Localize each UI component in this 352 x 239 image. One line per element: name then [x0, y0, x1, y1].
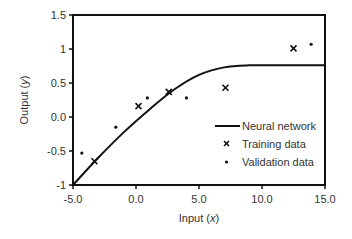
- legend-dot-marker-icon: [225, 160, 228, 163]
- y-tick-label: 0.0: [51, 111, 66, 123]
- training-point: [91, 158, 97, 164]
- chart-canvas: -5.00.05.010.015.0 -1-0.50.00.511.5 Inpu…: [0, 0, 352, 239]
- y-tick-label: 1: [60, 43, 66, 55]
- legend-label-validation-data: Validation data: [242, 156, 315, 168]
- training-point: [222, 85, 228, 91]
- validation-point: [114, 126, 117, 129]
- y-tick-label: -1: [56, 179, 66, 191]
- legend: Neural network Training data Validation …: [215, 120, 316, 168]
- y-axis-label: Output (y): [18, 76, 30, 125]
- x-tick-label: 0.0: [128, 193, 143, 205]
- x-tick-label: 10.0: [251, 193, 272, 205]
- y-tick-label: -0.5: [47, 145, 66, 157]
- validation-point: [80, 151, 83, 154]
- x-tick-label: 15.0: [314, 193, 335, 205]
- y-tick-label: 1.5: [51, 9, 66, 21]
- legend-label-neural-network: Neural network: [242, 120, 316, 132]
- y-axis-ticks: -1-0.50.00.511.5: [47, 9, 73, 191]
- x-axis-ticks: -5.00.05.010.015.0: [64, 185, 336, 205]
- legend-x-marker-icon: [224, 141, 229, 146]
- validation-point: [310, 43, 313, 46]
- y-tick-label: 0.5: [51, 77, 66, 89]
- training-point: [291, 45, 297, 51]
- x-tick-label: 5.0: [191, 193, 206, 205]
- x-tick-label: -5.0: [64, 193, 83, 205]
- legend-label-training-data: Training data: [242, 138, 307, 150]
- validation-point: [185, 96, 188, 99]
- training-point: [136, 103, 142, 109]
- x-axis-label: Input (x): [179, 212, 219, 224]
- validation-point: [146, 96, 149, 99]
